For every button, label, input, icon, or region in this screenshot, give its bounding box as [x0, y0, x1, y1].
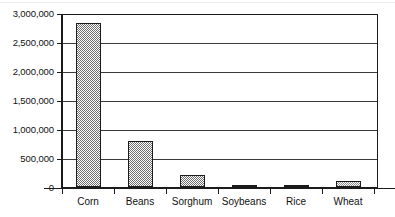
x-axis-label-sorghum: Sorghum	[172, 196, 213, 208]
x-axis-label-soybeans: Soybeans	[222, 196, 266, 208]
y-axis-tick-label-500000: 500,000	[20, 154, 54, 164]
x-axis-tick-3	[218, 189, 219, 194]
x-axis-tick-4	[270, 189, 271, 194]
x-axis-tick-2	[166, 189, 167, 194]
plot-area	[62, 14, 378, 188]
y-axis-tick-label-1000000: 1,000,000	[13, 125, 54, 135]
bar-series	[63, 15, 377, 187]
y-axis-tick-label-1500000: 1,500,000	[13, 96, 54, 106]
bar-corn	[76, 23, 101, 187]
x-axis-label-corn: Corn	[77, 196, 99, 208]
bar-beans	[128, 141, 153, 187]
y-axis-tick-label-2500000: 2,500,000	[13, 38, 54, 48]
x-axis-tick-6	[374, 189, 375, 194]
bar-rice	[284, 185, 309, 187]
x-axis-line	[44, 188, 395, 189]
y-axis-tick-label-2000000: 2,000,000	[13, 67, 54, 77]
x-axis-label-beans: Beans	[126, 196, 154, 208]
x-axis-tick-1	[114, 189, 115, 194]
x-axis-tick-0	[62, 189, 63, 194]
bar-sorghum	[180, 175, 205, 187]
x-axis-tick-5	[322, 189, 323, 194]
bar-soybeans	[232, 185, 257, 187]
y-axis-labels: 3,000,000 2,500,000 2,000,000 1,500,000 …	[0, 0, 62, 217]
y-axis-tick-label-3000000: 3,000,000	[13, 9, 54, 19]
x-axis-label-wheat: Wheat	[334, 196, 363, 208]
bar-wheat	[336, 181, 361, 187]
bar-chart: 3,000,000 2,500,000 2,000,000 1,500,000 …	[0, 0, 395, 217]
x-axis-label-rice: Rice	[286, 196, 306, 208]
